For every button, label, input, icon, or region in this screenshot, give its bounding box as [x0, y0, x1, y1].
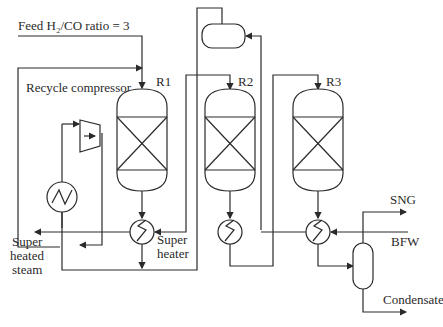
- hx-r3: [306, 220, 330, 244]
- recycle-compressor-label: Recycle compressor: [26, 80, 132, 95]
- hx-r2: [218, 220, 242, 244]
- reactor-r2: [205, 89, 255, 191]
- feed-label: Feed H₂/CO ratio = 3: [18, 18, 130, 33]
- steam-label-2: heated: [10, 248, 44, 263]
- steam-label-3: steam: [12, 262, 42, 277]
- reactor-r1: [117, 89, 167, 191]
- bfw-label: BFW: [391, 234, 420, 249]
- condensate-label: Condensate: [383, 292, 443, 307]
- steam-drum: [202, 24, 245, 48]
- process-flow-diagram: Feed H₂/CO ratio = 3 Recycle compressor …: [0, 0, 443, 327]
- r3-label: R3: [326, 74, 341, 89]
- recycle-compressor: [80, 120, 100, 152]
- super-heater-label-1: Super: [157, 232, 188, 247]
- r1-label: R1: [156, 74, 171, 89]
- recycle-cooler: [47, 182, 77, 212]
- r2-label: R2: [238, 74, 253, 89]
- steam-label-1: Super: [12, 234, 43, 249]
- separator: [353, 243, 373, 289]
- super-heater-label-2: heater: [157, 246, 189, 261]
- sng-label: SNG: [390, 192, 416, 207]
- super-heater: [130, 220, 154, 244]
- reactor-r3: [293, 89, 343, 191]
